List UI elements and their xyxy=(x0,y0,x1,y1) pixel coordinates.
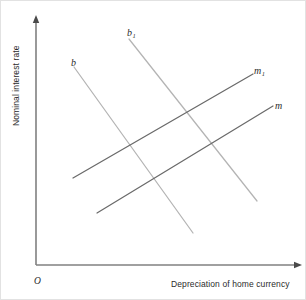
plot-area xyxy=(1,1,306,300)
curve-label-b1: b1 xyxy=(127,27,135,38)
origin-label: O xyxy=(34,276,41,286)
curve-label-b1-base: b xyxy=(127,27,132,38)
curves-group xyxy=(73,39,273,233)
curve-label-b: b xyxy=(71,57,76,68)
y-axis-title: Nominal interest rate xyxy=(11,36,21,126)
y-axis-arrowhead xyxy=(33,15,39,23)
curve-label-m: m xyxy=(275,100,282,111)
x-axis-title: Depreciation of home currency xyxy=(171,279,290,289)
curve-label-m-text: m xyxy=(275,100,282,111)
curve-label-m1: m1 xyxy=(254,65,264,76)
curve-label-m1-base: m xyxy=(254,65,261,76)
curve-m xyxy=(97,106,273,213)
curve-label-b1-subscript: 1 xyxy=(133,32,136,39)
curve-label-m1-subscript: 1 xyxy=(262,70,265,77)
chart-figure: b b1 m1 m Nominal interest rate Deprecia… xyxy=(0,0,306,300)
axes-group xyxy=(33,15,302,268)
curve-label-b-text: b xyxy=(71,57,76,68)
x-axis-arrowhead xyxy=(294,262,302,268)
curve-b1 xyxy=(129,39,257,201)
curve-b xyxy=(74,67,193,233)
